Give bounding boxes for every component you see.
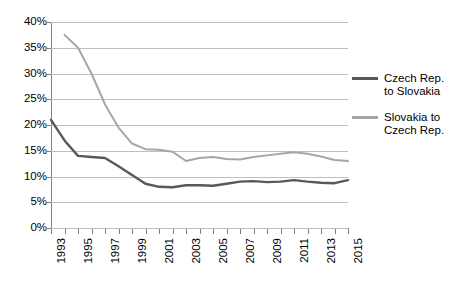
x-axis-tick-mark xyxy=(92,229,93,234)
x-axis-tick-label: 2001 xyxy=(164,238,176,264)
x-axis-tick-mark xyxy=(321,229,322,234)
x-axis-tick-mark xyxy=(78,229,79,234)
x-axis-tick-mark xyxy=(119,229,120,234)
y-axis-tick-label: 0% xyxy=(3,222,47,234)
x-axis-tick-mark xyxy=(105,229,106,234)
x-axis-tick-label: 2013 xyxy=(326,238,338,264)
gridline xyxy=(51,228,348,229)
x-axis-tick-label: 1997 xyxy=(110,238,122,264)
plot-area xyxy=(51,22,348,228)
x-axis-tick-label: 1999 xyxy=(137,238,149,264)
x-axis-tick-mark xyxy=(200,229,201,234)
legend-item-label: Slovakia to Czech Rep. xyxy=(384,111,444,137)
x-axis-tick-mark xyxy=(335,229,336,234)
x-axis-tick-label: 2003 xyxy=(191,238,203,264)
x-axis-tick-mark xyxy=(348,229,349,234)
legend-color-swatch xyxy=(352,116,378,119)
x-axis-tick-mark xyxy=(227,229,228,234)
x-axis-tick-mark xyxy=(159,229,160,234)
x-axis-tick-mark xyxy=(173,229,174,234)
x-axis-tick-mark xyxy=(267,229,268,234)
y-axis-tick-label: 10% xyxy=(3,171,47,183)
y-axis-tick-label: 5% xyxy=(3,197,47,209)
series-lines xyxy=(51,22,348,228)
chart-legend: Czech Rep. to SlovakiaSlovakia to Czech … xyxy=(352,72,452,150)
x-axis-tick-mark xyxy=(65,229,66,234)
x-axis-tick-label: 2015 xyxy=(353,238,365,264)
legend-color-swatch xyxy=(352,77,378,80)
y-axis-tick-label: 35% xyxy=(3,42,47,54)
x-axis-tick-mark xyxy=(240,229,241,234)
x-axis-tick-mark xyxy=(132,229,133,234)
x-axis-tick-label: 2007 xyxy=(245,238,257,264)
x-axis-tick-mark xyxy=(51,229,52,234)
x-axis-tick-mark xyxy=(186,229,187,234)
y-axis-tick-label: 40% xyxy=(3,16,47,28)
x-axis-tick-mark xyxy=(281,229,282,234)
x-axis-tick-label: 2011 xyxy=(299,238,311,263)
y-axis-labels: 0%5%10%15%20%25%30%35%40% xyxy=(0,0,47,282)
x-axis-tick-label: 2009 xyxy=(272,238,284,264)
legend-item-label: Czech Rep. to Slovakia xyxy=(384,72,444,98)
chart-container: 0%5%10%15%20%25%30%35%40% 19931995199719… xyxy=(0,0,454,282)
x-axis-tick-label: 2005 xyxy=(218,238,230,264)
x-axis-tick-mark xyxy=(254,229,255,234)
y-axis-tick-label: 15% xyxy=(3,145,47,157)
x-axis-tick-mark xyxy=(213,229,214,234)
legend-item[interactable]: Czech Rep. to Slovakia xyxy=(352,72,452,98)
x-axis-tick-mark xyxy=(294,229,295,234)
legend-item[interactable]: Slovakia to Czech Rep. xyxy=(352,111,452,137)
series-line xyxy=(65,35,349,161)
x-axis-tick-mark xyxy=(308,229,309,234)
y-axis-tick-label: 20% xyxy=(3,119,47,131)
x-axis-tick-mark xyxy=(146,229,147,234)
y-axis-tick-label: 30% xyxy=(3,68,47,80)
y-axis-tick-label: 25% xyxy=(3,94,47,106)
x-axis-tick-label: 1993 xyxy=(56,238,68,264)
x-axis-tick-label: 1995 xyxy=(83,238,95,264)
